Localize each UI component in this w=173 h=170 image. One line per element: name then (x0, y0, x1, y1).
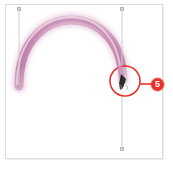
callout-badge-number[interactable]: 5 (151, 78, 164, 91)
screenshot-root: 5 (0, 0, 173, 170)
annotation-layer (0, 0, 173, 170)
